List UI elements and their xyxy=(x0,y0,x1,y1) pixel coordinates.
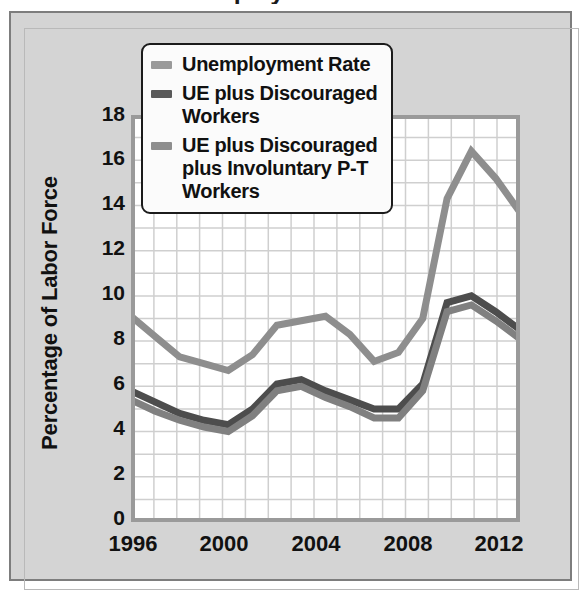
y-tick-18: 18 xyxy=(83,103,125,124)
legend-item-ue-plus-discouraged: UE plus Discouraged Workers xyxy=(151,82,381,128)
y-tick-12: 12 xyxy=(83,237,125,258)
x-tick-1996: 1996 xyxy=(88,531,178,557)
x-tick-2004: 2004 xyxy=(271,531,361,557)
chart-root: Unemployment Rates Percentage of Labor F… xyxy=(0,0,581,592)
y-tick-14: 14 xyxy=(83,192,125,213)
legend-item-ue-plus-discouraged-plus-pt: UE plus Discouraged plus Involuntary P-T… xyxy=(151,134,381,203)
x-tick-2012: 2012 xyxy=(454,531,544,557)
legend-swatch-icon-unemployment-rate xyxy=(151,61,172,69)
y-tick-4: 4 xyxy=(83,417,125,438)
y-axis-title: Percentage of Labor Force xyxy=(37,113,63,513)
y-tick-2: 2 xyxy=(83,462,125,483)
y-tick-6: 6 xyxy=(83,372,125,393)
y-tick-16: 16 xyxy=(83,147,125,168)
y-tick-0: 0 xyxy=(83,507,125,528)
x-axis-tick-labels: 1996 2000 2004 2008 2012 xyxy=(0,531,581,567)
y-tick-8: 8 xyxy=(83,327,125,348)
y-axis-tick-labels: 0 2 4 6 8 10 12 14 16 18 xyxy=(80,0,125,592)
chart-legend: Unemployment Rate UE plus Discouraged Wo… xyxy=(141,43,393,214)
legend-item-unemployment-rate: Unemployment Rate xyxy=(151,53,381,76)
legend-swatch-icon-ue-plus-discouraged xyxy=(151,90,172,98)
x-tick-2000: 2000 xyxy=(179,531,269,557)
y-tick-10: 10 xyxy=(83,282,125,303)
legend-swatch-icon-ue-plus-discouraged-plus-pt xyxy=(151,142,172,150)
legend-label-ue-plus-discouraged-plus-pt: UE plus Discouraged plus Involuntary P-T… xyxy=(182,134,381,203)
legend-label-ue-plus-discouraged: UE plus Discouraged Workers xyxy=(182,82,381,128)
x-tick-2008: 2008 xyxy=(363,531,453,557)
legend-label-unemployment-rate: Unemployment Rate xyxy=(182,53,370,76)
